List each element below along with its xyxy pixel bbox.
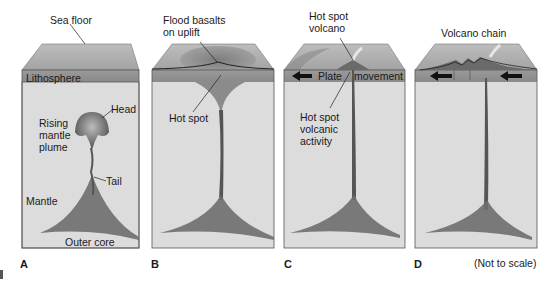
panel-d bbox=[415, 44, 537, 248]
label-plate: Plate bbox=[318, 70, 342, 82]
panel-letter-a: A bbox=[20, 258, 28, 270]
label-hot-spot-volcano: Hot spot volcano bbox=[309, 10, 359, 34]
label-tail: Tail bbox=[106, 175, 122, 187]
panel-letter-b: B bbox=[151, 258, 159, 270]
label-movement: movement bbox=[354, 70, 403, 82]
label-rising-mantle-plume: Rising mantle plume bbox=[39, 117, 79, 153]
scale-note: (Not to scale) bbox=[474, 257, 536, 269]
label-flood-basalts: Flood basalts on uplift bbox=[163, 14, 238, 38]
label-head: Head bbox=[111, 103, 136, 115]
label-hot-spot-volcanic-activity: Hot spot volcanic activity bbox=[300, 111, 348, 147]
label-outer-core: Outer core bbox=[65, 236, 115, 248]
label-hot-spot: Hot spot bbox=[169, 112, 208, 124]
label-mantle: Mantle bbox=[26, 195, 58, 207]
label-volcano-chain: Volcano chain bbox=[441, 27, 506, 39]
label-sea-floor: Sea floor bbox=[50, 14, 92, 26]
panel-letter-c: C bbox=[284, 258, 292, 270]
panel-b bbox=[152, 42, 274, 248]
label-lithosphere: Lithosphere bbox=[26, 72, 81, 84]
panel-letter-d: D bbox=[414, 258, 422, 270]
corner-mark bbox=[0, 270, 3, 279]
